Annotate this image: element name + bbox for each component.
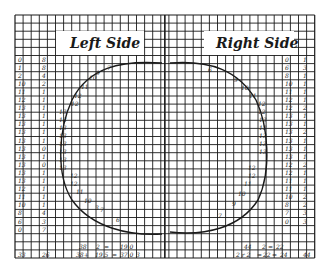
right-curve-label: 6 (208, 66, 212, 73)
right-curve-label: 13 (259, 116, 267, 123)
right-row-count: 1 (303, 153, 307, 160)
right-stitch-count: 11 (285, 177, 293, 184)
left-row-count: 1 (42, 104, 46, 111)
left-stitch-count: 0 (18, 56, 22, 63)
left-curve-label: 3 (95, 204, 99, 211)
right-curve-label: 13 (259, 140, 267, 147)
right-row-count: 2 (302, 161, 307, 168)
right-curve-label: 12 (258, 108, 266, 115)
right-row-count: 1 (303, 88, 307, 95)
left-row-count: 1 (42, 177, 46, 184)
right-row-count: 1 (303, 177, 307, 184)
right-curve-label: 11 (244, 180, 252, 187)
left-row-count: 1 (42, 137, 46, 144)
left-curve-label: 12 (70, 180, 78, 187)
right-total-calc: 44 (243, 243, 252, 250)
right-row-count: 1 (303, 72, 307, 79)
right-stitch-count: 0 (285, 56, 289, 63)
right-total-calc: = (268, 243, 273, 250)
right-stitch-count: 12 (285, 104, 293, 111)
left-row-count: 0 (42, 161, 46, 168)
left-row-count: 4 (41, 72, 46, 79)
left-curve-label: 13 (59, 164, 67, 171)
right-total-calc: 44 (302, 251, 311, 258)
left-curve-label: 13 (59, 140, 67, 147)
left-row-count: 1 (42, 120, 46, 127)
right-curve-label: 7 (218, 212, 222, 219)
right-row-count: 1 (303, 96, 307, 103)
right-curve-label: 12 (258, 100, 266, 107)
left-total-calc: 37 0 (120, 251, 134, 258)
left-curve-label: 7 (107, 64, 111, 71)
right-stitch-count: 12 (285, 169, 293, 176)
left-total-calc: = (112, 251, 117, 258)
right-total-calc: 2 r 2 (235, 251, 251, 258)
right-curve-label: 12 (248, 164, 256, 171)
right-side-title: Right Side (215, 35, 298, 51)
left-row-count: 1 (42, 96, 46, 103)
right-row-count: 3 (303, 218, 307, 225)
right-curve-label: 13 (259, 132, 267, 139)
right-stitch-count: 7 (285, 209, 289, 216)
right-row-count: 1 (303, 137, 307, 144)
left-curve-label: 13 (59, 116, 67, 123)
right-stitch-count: 13 (285, 153, 293, 160)
right-curve-label: 11 (249, 92, 257, 99)
left-curve-label: 10 (89, 74, 97, 81)
right-total-calc: 2 (261, 243, 266, 250)
left-total-calc: = (104, 243, 109, 250)
right-row-count: 1 (303, 120, 307, 127)
right-total-calc: = (257, 251, 262, 258)
right-curve-label: 10 (241, 84, 249, 91)
right-row-count: 1 (303, 185, 307, 192)
left-stitch-count: 13 (18, 128, 26, 135)
left-stitch-count: 13 (18, 145, 26, 152)
left-row-count: 1 (42, 88, 46, 95)
left-total-calc: 2 (95, 243, 100, 250)
left-stitch-count: 13 (18, 161, 26, 168)
left-total-calc: 38+ (76, 251, 89, 258)
left-curve-label: 7 (100, 206, 104, 213)
left-row-count: 8 (42, 56, 46, 63)
left-row-count: 1 (42, 128, 46, 135)
left-row-count: 1 (42, 185, 46, 192)
right-stitch-count: 13 (285, 112, 293, 119)
right-stitch-count: 8 (285, 72, 289, 79)
left-curve-label: 13 (59, 148, 67, 155)
right-row-count: 1 (303, 80, 307, 87)
right-row-count: 1 (303, 145, 307, 152)
right-row-count: 1 (303, 56, 307, 63)
left-curve-label: 13 (59, 124, 67, 131)
left-stitch-count: 13 (18, 137, 26, 144)
right-stitch-count: 11 (285, 185, 293, 192)
left-curve-label: 11 (76, 188, 84, 195)
left-stitch-count: 11 (18, 88, 26, 95)
left-stitch-count: 1 (18, 64, 22, 71)
left-stitch-count: 10 (18, 201, 26, 208)
left-stitch-count: 13 (18, 112, 26, 119)
left-stitch-count: 13 (18, 104, 26, 111)
right-row-count: 2 (302, 201, 307, 208)
left-stitch-count: 13 (18, 153, 26, 160)
left-stitch-count: 11 (18, 193, 26, 200)
left-curve-label: 12 (74, 92, 82, 99)
right-row-count: 3 (303, 209, 307, 216)
right-curve-label: 12 (248, 172, 256, 179)
right-row-count: 2 (302, 104, 307, 111)
right-curve-label: 10 (238, 190, 246, 197)
left-row-count: 1 (42, 169, 46, 176)
right-row-count: 2 (302, 193, 307, 200)
left-stitch-count: 13 (18, 169, 26, 176)
left-side-title: Left Side (69, 35, 140, 51)
left-curve-label: 13 (59, 108, 67, 115)
left-curve-label: 6 (116, 216, 120, 223)
left-curve-label: 12 (70, 172, 78, 179)
left-curve-label: 13 (59, 156, 67, 163)
left-stitch-count: 8 (18, 209, 22, 216)
left-stitch-count: 0 (18, 226, 22, 233)
left-curve-label: 11 (81, 83, 89, 90)
left-row-count: 1 (42, 153, 46, 160)
right-row-count: 2 (302, 128, 307, 135)
right-curve-label: 9 (234, 76, 238, 83)
left-stitch-count: 10 (18, 80, 26, 87)
